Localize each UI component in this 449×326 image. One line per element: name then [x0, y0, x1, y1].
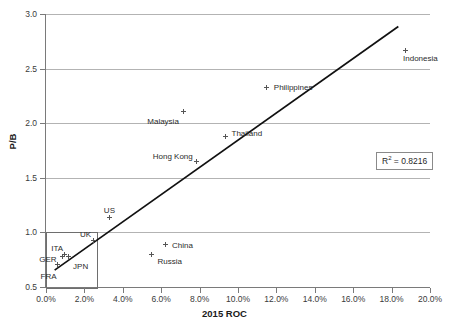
data-point-marker-icon — [91, 238, 96, 243]
data-point-marker-icon — [55, 262, 60, 267]
r-squared-value: = 0.8216 — [391, 156, 427, 166]
data-point-label: JPN — [73, 263, 88, 271]
data-point[interactable] — [149, 252, 154, 257]
data-point[interactable] — [181, 109, 186, 114]
y-tick-label: 2.5 — [3, 64, 37, 74]
x-tick-label: 20.0% — [410, 294, 449, 304]
y-tick-label: 1.5 — [3, 173, 37, 183]
x-tick-label: 16.0% — [333, 294, 373, 304]
x-tick-mark — [315, 288, 316, 293]
x-tick-label: 18.0% — [372, 294, 412, 304]
r-squared-annotation: R2 = 0.8216 — [376, 152, 433, 170]
data-point-marker-icon — [149, 252, 154, 257]
x-tick-label: 0.0% — [26, 294, 66, 304]
x-tick-label: 8.0% — [180, 294, 220, 304]
plot-area — [46, 14, 430, 287]
y-tick-mark — [40, 178, 45, 179]
x-tick-mark — [200, 288, 201, 293]
x-tick-mark — [353, 288, 354, 293]
y-tick-mark — [40, 287, 45, 288]
data-point[interactable] — [60, 254, 65, 259]
y-tick-mark — [40, 123, 45, 124]
data-point[interactable] — [55, 262, 60, 267]
y-tick-label: 3.0 — [3, 9, 37, 19]
data-point[interactable] — [194, 159, 199, 164]
data-point[interactable] — [107, 215, 112, 220]
x-tick-mark — [123, 288, 124, 293]
data-point-label: China — [172, 242, 193, 250]
data-point-marker-icon — [163, 242, 168, 247]
y-tick-mark — [40, 232, 45, 233]
x-tick-mark — [276, 288, 277, 293]
y-tick-label: 1.0 — [3, 227, 37, 237]
x-tick-label: 2.0% — [64, 294, 104, 304]
data-point-label: UK — [80, 231, 91, 239]
x-tick-label: 12.0% — [256, 294, 296, 304]
x-tick-mark — [84, 288, 85, 293]
data-point-label: Hong Kong — [153, 153, 193, 161]
data-point-marker-icon — [194, 159, 199, 164]
data-point-label: FRA — [41, 273, 57, 281]
data-point-marker-icon — [107, 215, 112, 220]
x-tick-mark — [46, 288, 47, 293]
scatter-chart: 0.51.01.52.02.53.0 0.0%2.0%4.0%6.0%8.0%1… — [0, 0, 449, 326]
grid-line — [46, 69, 430, 70]
data-point-marker-icon — [60, 254, 65, 259]
x-tick-mark — [238, 288, 239, 293]
data-point-label: Malaysia — [147, 118, 179, 126]
data-point-label: Indonesia — [403, 55, 438, 63]
x-axis-title: 2015 ROC — [0, 308, 449, 319]
y-tick-mark — [40, 69, 45, 70]
data-point[interactable] — [163, 242, 168, 247]
data-point-marker-icon — [264, 85, 269, 90]
data-point-marker-icon — [403, 48, 408, 53]
data-point-label: Philippines — [274, 84, 313, 92]
data-point-label: Thailand — [232, 130, 263, 138]
grid-line — [46, 14, 430, 15]
data-point-marker-icon — [181, 109, 186, 114]
data-point[interactable] — [91, 238, 96, 243]
y-axis-title: P/B — [7, 122, 18, 162]
grid-line — [46, 178, 430, 179]
data-point-label: US — [104, 207, 115, 215]
data-point[interactable] — [264, 85, 269, 90]
x-tick-label: 4.0% — [103, 294, 143, 304]
data-point[interactable] — [403, 48, 408, 53]
x-tick-mark — [392, 288, 393, 293]
y-tick-label: 0.5 — [3, 282, 37, 292]
grid-line — [46, 123, 430, 124]
data-point-label: Russia — [158, 258, 182, 266]
x-tick-mark — [161, 288, 162, 293]
grid-line — [46, 232, 430, 233]
data-point-marker-icon — [223, 134, 228, 139]
x-tick-label: 14.0% — [295, 294, 335, 304]
x-tick-label: 10.0% — [218, 294, 258, 304]
x-tick-mark — [430, 288, 431, 293]
data-point-label: ITA — [51, 245, 63, 253]
data-point[interactable] — [223, 134, 228, 139]
x-tick-label: 6.0% — [141, 294, 181, 304]
y-tick-mark — [40, 14, 45, 15]
